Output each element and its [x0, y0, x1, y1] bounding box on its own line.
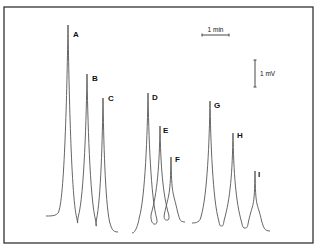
figure-frame	[4, 7, 313, 243]
peak-label-e: E	[163, 126, 169, 135]
peak-label-h: H	[237, 131, 243, 140]
peak-label-b: B	[92, 74, 98, 83]
peak-label-d: D	[152, 93, 158, 102]
peak-label-c: C	[108, 94, 114, 103]
peak-label-a: A	[73, 30, 79, 39]
time-scale-label: 1 min	[208, 26, 224, 33]
peak-label-g: G	[214, 101, 220, 110]
peak-label-i: I	[258, 170, 260, 179]
chromatogram-figure: ABCDEFGHI 1 min 1 mV	[0, 0, 318, 247]
peak-label-f: F	[175, 155, 180, 164]
signal-scale-label: 1 mV	[260, 70, 276, 77]
